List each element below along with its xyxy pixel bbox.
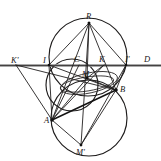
- point-I: [48, 64, 51, 67]
- point-R: [88, 22, 91, 25]
- point-B: [114, 88, 118, 92]
- label-I-prime: I': [125, 55, 130, 64]
- label-M-prime: M': [76, 148, 85, 157]
- label-A: A: [44, 116, 49, 125]
- label-R: R: [86, 12, 91, 21]
- label-M: M: [82, 70, 89, 79]
- segment-R-to-Ip: [89, 23, 126, 65]
- segment-A-to-K: [52, 65, 104, 120]
- geometry-figure: R K' I C K I' D M B A M': [0, 0, 161, 161]
- label-K: K: [99, 55, 105, 64]
- label-D: D: [144, 55, 150, 64]
- point-Ip: [125, 64, 128, 67]
- segment-A-to-Mp: [52, 120, 81, 145]
- point-A: [50, 118, 54, 122]
- label-C: C: [74, 55, 80, 64]
- geometry-canvas: [0, 0, 161, 161]
- label-B: B: [120, 85, 125, 94]
- label-I: I: [43, 56, 46, 65]
- label-K-prime: K': [11, 56, 19, 65]
- point-Mp: [80, 144, 83, 147]
